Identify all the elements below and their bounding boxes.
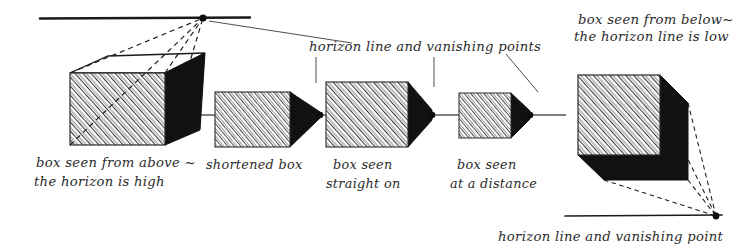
vp-box-3-dot — [429, 112, 436, 119]
box-shortened — [215, 92, 320, 147]
caption-box-above-line2: the horizon is high — [34, 174, 165, 189]
diagram-canvas: horizon line and vanishing points box se… — [0, 0, 754, 251]
horizon-top — [40, 18, 250, 19]
caption-box-above-line1: box seen from above ~ — [36, 155, 196, 170]
box-right-face — [408, 82, 432, 147]
box-seen-from-below — [578, 75, 716, 216]
vp-box-4-dot — [527, 112, 534, 119]
vp-bottom-dot — [713, 213, 720, 220]
leader-lines — [209, 21, 538, 92]
annotation-top-right-line2: the horizon line is low — [574, 29, 729, 44]
leader-caption-vp-4 — [506, 54, 538, 92]
caption-at-distance-line2: at a distance — [450, 176, 537, 191]
caption-at-distance-line1: box seen — [457, 157, 517, 172]
box-straight-on — [326, 82, 432, 147]
annotation-top-center: horizon line and vanishing points — [309, 39, 541, 54]
box-front-face — [578, 75, 660, 155]
annotation-top-right-line1: box seen from below~ — [578, 12, 734, 27]
vp-top-dot — [199, 14, 206, 21]
box-at-distance — [459, 93, 530, 138]
annotation-bottom-right: horizon line and vanishing point — [498, 229, 723, 244]
caption-straight-on-line1: box seen — [333, 157, 393, 172]
box-front-face — [326, 82, 408, 147]
box-front-face — [459, 93, 511, 138]
box-front-face — [70, 73, 165, 145]
caption-straight-on-line2: straight on — [326, 176, 400, 191]
box-seen-from-above — [70, 18, 205, 145]
perspective-diagram: horizon line and vanishing points box se… — [0, 0, 754, 251]
caption-shortened-box-line1: shortened box — [206, 157, 303, 172]
vp-box-2-dot — [317, 112, 324, 119]
horizon-bottom — [565, 215, 722, 216]
box-front-face — [215, 92, 290, 147]
box-right-face — [290, 92, 320, 147]
